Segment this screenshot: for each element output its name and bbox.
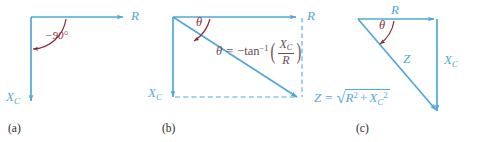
panel-a-xc-label: XC	[6, 90, 20, 106]
z-eq-radicand: R2+XC2	[345, 89, 390, 105]
panel-b-z-equation: Z=√R2+XC2	[314, 90, 390, 106]
z-eq-equals: =	[325, 90, 332, 105]
panel-c-xc-label: XC	[444, 53, 458, 69]
impedance-phasor-figure: R XC −90° (a) R XC θ θ=−tan−1(XCR) Z=√R2…	[0, 0, 482, 142]
panel-a-caption: (a)	[8, 123, 21, 135]
z-eq-term2-exponent: 2	[383, 90, 387, 100]
panel-b-angle-label: θ	[196, 16, 202, 29]
panel-a-angle-label: −90°	[45, 30, 68, 41]
z-eq-term2: X	[369, 90, 377, 105]
theta-eq-lhs: θ	[216, 44, 222, 58]
panel-b-caption: (b)	[162, 123, 175, 135]
panel-c-r-label: R	[391, 3, 399, 16]
panel-b-theta-equation: θ=−tan−1(XCR)	[216, 38, 303, 67]
theta-eq-numerator-subscript: C	[287, 43, 293, 52]
panel-c-z-label: Z	[403, 52, 410, 65]
panel-a-r-label: R	[131, 9, 139, 22]
z-eq-plus: +	[360, 90, 367, 105]
panel-a-xc-symbol: X	[6, 89, 14, 104]
panel-b-xc-label: XC	[148, 86, 162, 102]
theta-eq-fraction: XCR	[278, 38, 295, 67]
panel-c-caption: (c)	[356, 123, 369, 135]
panel-b-xc-subscript: C	[156, 92, 162, 102]
z-eq-term1-exponent: 2	[353, 90, 357, 100]
z-eq-lhs: Z	[314, 90, 321, 105]
theta-eq-denominator: R	[278, 54, 295, 66]
panel-a-xc-subscript: C	[14, 96, 20, 106]
theta-eq-exponent: −1	[260, 43, 269, 53]
figure-vector-artwork	[0, 0, 482, 142]
panel-b-r-label: R	[307, 9, 315, 22]
theta-eq-paren-close: )	[297, 40, 302, 64]
theta-eq-equals: =	[226, 44, 233, 58]
theta-eq-numerator: XC	[278, 38, 295, 54]
theta-eq-numerator-symbol: X	[280, 37, 287, 51]
panel-b-xc-symbol: X	[148, 85, 156, 100]
panel-c-xc-symbol: X	[444, 52, 452, 67]
theta-eq-paren-open: (	[270, 40, 275, 64]
panel-c-xc-subscript: C	[452, 59, 458, 69]
theta-eq-function: tan	[244, 44, 259, 58]
panel-c-angle-label: θ	[379, 19, 385, 32]
